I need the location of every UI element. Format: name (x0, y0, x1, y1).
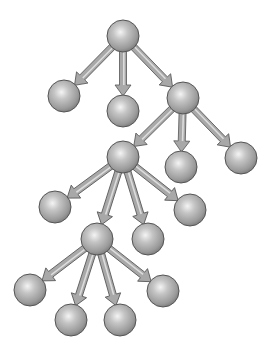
arrow-icon (69, 40, 119, 91)
sphere-node-n4 (107, 141, 139, 173)
nodes-layer (14, 20, 257, 336)
sphere-node-n8 (81, 223, 113, 255)
arrow-icon (187, 103, 236, 153)
sphere-node-n11 (14, 274, 46, 306)
sphere-node-n3 (167, 82, 199, 114)
sphere-node-n2 (107, 95, 139, 127)
arrow-icon (115, 50, 131, 96)
sphere-node-n12 (55, 304, 87, 336)
sphere-node-n7 (39, 191, 71, 223)
sphere-node-n6 (225, 142, 257, 174)
sphere-node-n13 (104, 304, 136, 336)
arrow-icon (173, 112, 190, 152)
sphere-node-n9 (132, 223, 164, 255)
tree-diagram (0, 0, 272, 351)
arrow-icon (127, 40, 178, 92)
sphere-node-n10 (174, 194, 206, 226)
sphere-node-n5 (165, 151, 197, 183)
sphere-node-n14 (147, 275, 179, 307)
sphere-node-n1 (48, 80, 80, 112)
sphere-node-root (107, 20, 139, 52)
